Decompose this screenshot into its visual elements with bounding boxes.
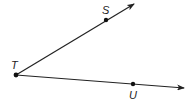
label-s: S xyxy=(102,4,110,16)
ray-ts xyxy=(16,4,134,75)
angle-diagram: T S U xyxy=(0,0,195,111)
point-u xyxy=(131,82,135,86)
label-u: U xyxy=(129,89,137,101)
label-t: T xyxy=(11,59,19,71)
point-t xyxy=(14,73,19,78)
point-s xyxy=(104,18,108,22)
ray-tu xyxy=(16,75,184,88)
